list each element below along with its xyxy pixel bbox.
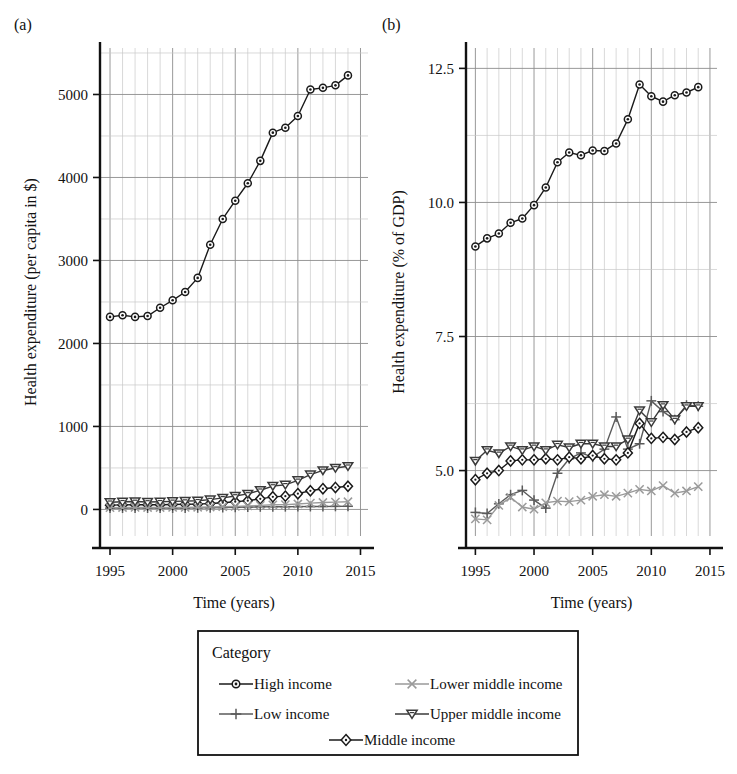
y-tick-label: 10.0	[428, 195, 454, 211]
marker-circle-dot	[184, 291, 187, 294]
marker-circle-dot	[246, 182, 249, 185]
marker-circle-dot	[134, 316, 137, 319]
marker-diamond-dot	[556, 459, 558, 461]
x-tick-label: 2000	[158, 563, 188, 579]
series-high-income	[106, 72, 351, 321]
x-tick-label: 1995	[460, 563, 490, 579]
y-tick-label: 12.5	[428, 61, 454, 77]
marker-diamond-dot	[638, 422, 640, 424]
marker-triangle-down	[529, 443, 539, 451]
chart-figure: (a)0100020003000400050001995200020052010…	[0, 0, 737, 774]
marker-circle-dot	[159, 306, 162, 309]
panel-a-series	[105, 72, 353, 513]
legend-entry-label: Middle income	[364, 732, 456, 748]
marker-triangle-down	[564, 444, 574, 452]
panel-a-group: (a)0100020003000400050001995200020052010…	[14, 16, 375, 612]
marker-circle-dot	[474, 245, 477, 248]
y-tick-label: 5.0	[435, 463, 454, 479]
y-tick-label: 1000	[58, 419, 88, 435]
marker-triangle-down	[306, 471, 316, 479]
x-tick-label: 2015	[695, 563, 725, 579]
marker-circle-dot	[284, 126, 287, 129]
marker-diamond-dot	[533, 459, 535, 461]
panel-a-xlabel: Time (years)	[193, 594, 275, 612]
marker-diamond-dot	[662, 436, 664, 438]
marker-circle-dot	[347, 74, 350, 77]
legend-entry-label: High income	[254, 676, 332, 692]
marker-circle-dot	[309, 88, 312, 91]
marker-diamond-dot	[568, 456, 570, 458]
x-tick-label: 2010	[636, 563, 666, 579]
y-tick-label: 7.5	[435, 329, 454, 345]
marker-triangle-down	[471, 457, 481, 465]
panel-a-letter: (a)	[14, 16, 32, 34]
marker-circle-dot	[509, 222, 512, 225]
marker-triangle-down	[506, 443, 516, 451]
marker-diamond-dot	[650, 437, 652, 439]
marker-circle-dot	[486, 237, 489, 240]
panel-b-group: (b)5.07.510.012.519952000200520102015Tim…	[382, 16, 725, 612]
legend: CategoryHigh incomeLower middle incomeLo…	[198, 631, 578, 755]
marker-circle-dot	[638, 83, 641, 86]
marker-circle-dot	[603, 150, 606, 153]
panel-b-gridlines	[466, 48, 717, 536]
marker-circle-dot	[498, 232, 501, 235]
marker-circle-dot	[568, 151, 571, 154]
marker-diamond-dot	[592, 454, 594, 456]
marker-circle-dot	[334, 84, 337, 87]
series-high-income	[472, 81, 702, 250]
series-lower-middle-income	[471, 482, 702, 524]
panel-b-axes: 5.07.510.012.519952000200520102015	[428, 42, 725, 579]
marker-circle-dot	[234, 199, 237, 202]
marker-diamond-dot	[685, 431, 687, 433]
series-line	[110, 75, 348, 317]
marker-circle-dot	[171, 299, 174, 302]
marker-diamond-dot	[345, 739, 347, 741]
marker-circle-dot	[146, 315, 149, 318]
marker-triangle-down	[318, 467, 328, 475]
marker-circle-dot	[615, 142, 618, 145]
legend-entry-label: Low income	[254, 706, 330, 722]
x-tick-label: 2000	[519, 563, 549, 579]
x-tick-label: 2010	[283, 563, 313, 579]
series-line	[475, 423, 698, 479]
marker-circle-dot	[109, 316, 112, 319]
y-tick-label: 3000	[58, 253, 88, 269]
marker-triangle-down	[517, 447, 527, 455]
marker-triangle-down	[647, 419, 657, 427]
marker-circle-dot	[580, 154, 583, 157]
series-middle-income	[471, 418, 703, 484]
marker-circle-dot	[221, 218, 224, 221]
marker-diamond-dot	[674, 438, 676, 440]
x-tick-label: 2005	[578, 563, 608, 579]
series-upper-middle-income	[105, 463, 353, 507]
marker-circle-dot	[650, 95, 653, 98]
marker-circle-dot	[544, 186, 547, 189]
legend-entry-label: Lower middle income	[430, 676, 563, 692]
x-tick-label: 2015	[345, 563, 375, 579]
marker-diamond-dot	[498, 469, 500, 471]
panel-b-ylabel: Health expenditure (% of GDP)	[390, 190, 408, 394]
marker-triangle-down	[541, 447, 551, 455]
marker-circle-dot	[521, 217, 524, 220]
marker-circle-dot	[235, 683, 238, 686]
marker-circle-dot	[591, 149, 594, 152]
marker-diamond-dot	[521, 459, 523, 461]
panel-b-letter: (b)	[382, 16, 401, 34]
marker-diamond-dot	[603, 458, 605, 460]
marker-circle-dot	[685, 91, 688, 94]
panel-b-series	[470, 81, 703, 524]
marker-circle-dot	[627, 118, 630, 121]
marker-diamond-dot	[347, 485, 349, 487]
marker-diamond-dot	[259, 498, 261, 500]
marker-diamond-dot	[284, 495, 286, 497]
marker-diamond-dot	[322, 488, 324, 490]
panel-a-gridlines	[100, 48, 368, 536]
marker-circle-dot	[272, 131, 275, 134]
marker-diamond-dot	[580, 458, 582, 460]
marker-circle-dot	[322, 87, 325, 90]
marker-diamond-dot	[486, 472, 488, 474]
marker-diamond-dot	[697, 427, 699, 429]
marker-diamond-dot	[247, 500, 249, 502]
marker-circle-dot	[556, 161, 559, 164]
